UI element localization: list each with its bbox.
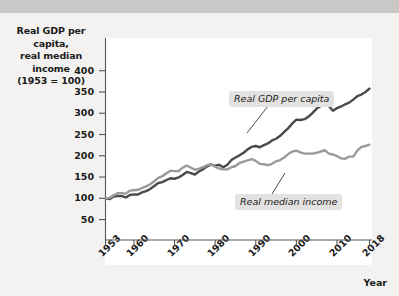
series-label-real-median-income: Real median income [235, 194, 342, 210]
chart-figure: Real GDP per capita, real median income … [0, 13, 399, 296]
chart-canvas [0, 13, 399, 296]
y-axis-ticks [99, 71, 106, 220]
annotation-leader-lines [247, 106, 285, 194]
series-label-real-gdp-per-capita: Real GDP per capita [229, 91, 334, 107]
x-axis-ticks [106, 240, 370, 247]
x-axis-title: Year [363, 277, 387, 288]
axis-lines [106, 38, 373, 241]
top-gray-band [0, 0, 399, 13]
